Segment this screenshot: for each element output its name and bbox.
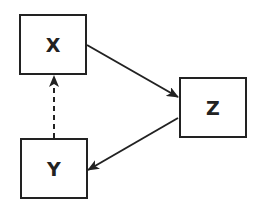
node-z-label: Z <box>206 97 220 119</box>
node-y-label: Y <box>47 158 61 180</box>
node-z: Z <box>179 77 247 138</box>
edge-z-to-y-arrow <box>88 118 178 170</box>
edge-x-to-z-arrow <box>87 45 178 97</box>
node-x-label: X <box>46 34 61 56</box>
diagram-canvas: X Z Y <box>0 0 257 212</box>
node-y: Y <box>20 138 88 199</box>
node-x: X <box>19 14 87 75</box>
